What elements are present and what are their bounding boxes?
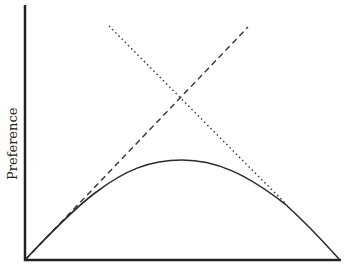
y-axis-label: Preference <box>6 130 20 150</box>
preference-diagram <box>0 0 350 273</box>
dotted-falling-line <box>109 26 287 205</box>
preference-curve <box>25 160 339 260</box>
